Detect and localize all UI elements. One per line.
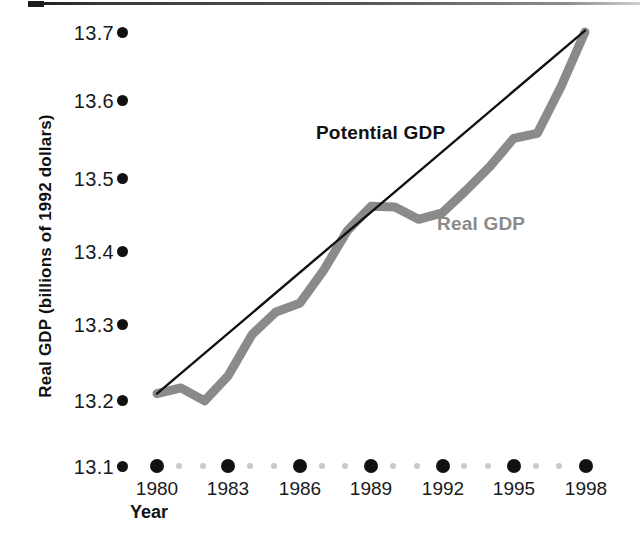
gdp-chart-figure: Real GDP (billions of 1992 dollars) 13.7… bbox=[0, 0, 640, 551]
real-gdp-label: Real GDP bbox=[437, 213, 525, 235]
potential-gdp-label: Potential GDP bbox=[316, 122, 445, 144]
plot-area bbox=[0, 0, 640, 551]
